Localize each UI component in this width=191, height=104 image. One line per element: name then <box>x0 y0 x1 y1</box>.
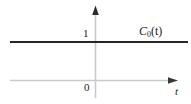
y-tick-label-one: 1 <box>83 28 89 39</box>
curve-label-c0t: C0(t) <box>139 25 162 39</box>
x-axis-arrowhead <box>168 77 178 84</box>
origin-label-zero: 0 <box>84 82 90 93</box>
x-axis-label-t: t <box>175 86 178 97</box>
figure-plot-constant-function: 1 0 t C0(t) <box>0 0 191 104</box>
curve-label-argument: (t) <box>151 24 162 38</box>
curve-label-base: C <box>139 24 147 38</box>
y-axis-arrowhead <box>92 6 99 16</box>
plot-canvas <box>0 0 191 104</box>
